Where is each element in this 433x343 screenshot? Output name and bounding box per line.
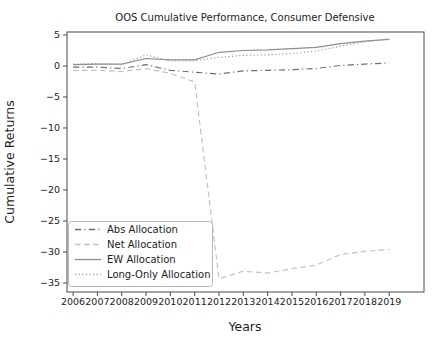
series-line-ew-allocation (73, 39, 389, 64)
y-tick-label: −30 (40, 246, 60, 257)
x-axis-label: Years (228, 319, 262, 334)
x-tick-label: 2011 (183, 296, 207, 307)
x-tick-label: 2006 (61, 296, 85, 307)
x-tick-label: 2013 (231, 296, 255, 307)
legend-label-long-only-allocation: Long-Only Allocation (107, 269, 210, 280)
y-tick-label: −35 (40, 277, 60, 288)
x-tick-label: 2018 (353, 296, 377, 307)
x-tick-label: 2009 (134, 296, 158, 307)
x-tick-label: 2017 (328, 296, 352, 307)
chart-title: OOS Cumulative Performance, Consumer Def… (115, 12, 374, 23)
x-tick-label: 2008 (110, 296, 134, 307)
y-tick-label: −10 (40, 122, 60, 133)
y-tick-label: −15 (40, 153, 60, 164)
x-tick-label: 2010 (158, 296, 182, 307)
x-tick-label: 2014 (256, 296, 280, 307)
legend-label-net-allocation: Net Allocation (107, 239, 177, 250)
legend: Abs Allocation Net Allocation EW Allocat… (69, 222, 213, 287)
y-tick-label: −20 (40, 184, 60, 195)
legend-label-abs-allocation: Abs Allocation (107, 224, 178, 235)
x-tick-label: 2012 (207, 296, 231, 307)
x-tick-label: 2019 (377, 296, 401, 307)
x-tick-label: 2015 (280, 296, 304, 307)
x-tick-label: 2007 (85, 296, 109, 307)
x-tick-label: 2016 (304, 296, 328, 307)
y-tick-label: −5 (46, 91, 60, 102)
y-axis-label: Cumulative Returns (2, 100, 17, 223)
figure: OOS Cumulative Performance, Consumer Def… (0, 0, 433, 343)
legend-label-ew-allocation: EW Allocation (107, 254, 176, 265)
y-tick-label: −25 (40, 215, 60, 226)
y-tick-label: 0 (54, 60, 60, 71)
performance-chart: OOS Cumulative Performance, Consumer Def… (0, 0, 433, 343)
y-tick-label: 5 (54, 29, 60, 40)
